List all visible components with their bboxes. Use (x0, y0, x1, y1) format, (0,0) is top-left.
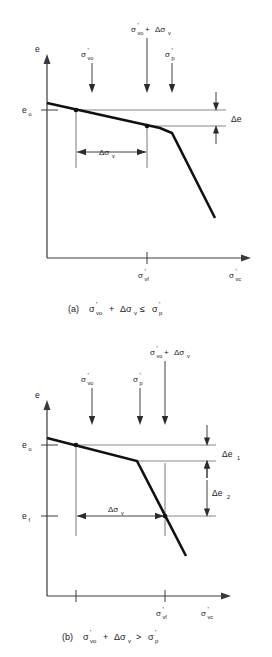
annotation-sigma-vo-plus-delta-a: σ ' vo + Δσ v (131, 22, 171, 36)
svg-text:vo: vo (96, 310, 103, 316)
y-axis-title-b: e (35, 390, 40, 400)
data-point-sigma-vf-b (163, 514, 168, 519)
x-axis-title-b: σ ' vc (201, 606, 213, 620)
svg-text:': ' (159, 301, 160, 308)
svg-text:': ' (145, 268, 146, 275)
delta-sigma-v-arrowhead-left-a (77, 149, 86, 155)
annotation-arrowhead-sigma-vo-a (89, 84, 95, 93)
caption-a: (a) σ ' vo + Δσ v ≤ σ ' p (0, 298, 272, 322)
annotation-arrowhead-sigma-vo-b (89, 416, 95, 425)
svg-text:σ: σ (152, 304, 158, 314)
annotation-sigma-vo-plus-delta-b: σ ' vo + Δσ v (150, 345, 190, 359)
svg-text:vo: vo (90, 638, 97, 644)
y-tick-label-e0-a: e o (22, 105, 32, 117)
svg-text:Δσ: Δσ (155, 25, 165, 34)
svg-text:': ' (96, 301, 97, 308)
svg-text:vo: vo (138, 30, 144, 36)
svg-text:σ: σ (201, 609, 206, 618)
svg-text:v: v (134, 310, 137, 316)
svg-text:Δe: Δe (222, 449, 233, 459)
y-axis-arrowhead-a (44, 54, 51, 64)
data-point-sigma-vf-a (145, 124, 150, 129)
svg-text:e: e (22, 511, 27, 521)
svg-text:': ' (88, 47, 89, 54)
y-axis-title-a: e (35, 44, 40, 54)
svg-text:Δσ: Δσ (120, 304, 132, 314)
svg-text:p: p (155, 638, 159, 644)
annotation-sigma-p-a: σ ' p (165, 47, 175, 61)
svg-text:v: v (112, 153, 115, 159)
svg-text:2: 2 (227, 494, 230, 500)
annotation-arrowhead-sigma-vo-plus-delta-a (144, 84, 150, 93)
svg-text:p: p (140, 380, 143, 386)
annotation-sigma-vo-a: σ ' vo (81, 47, 93, 61)
svg-text:': ' (208, 606, 209, 613)
x-axis-arrowhead-a (241, 255, 251, 262)
caption-a-expression: σ ' vo + Δσ v ≤ σ ' p (89, 301, 163, 316)
svg-text:v: v (128, 638, 131, 644)
svg-text:vo: vo (88, 55, 94, 61)
annotation-arrowhead-sigma-p-a (169, 84, 175, 93)
svg-text:σ: σ (229, 271, 234, 280)
svg-text:Δσ: Δσ (174, 348, 184, 357)
svg-text:': ' (157, 345, 158, 352)
svg-text:': ' (88, 372, 89, 379)
svg-text:vo: vo (157, 353, 163, 359)
svg-text:σ: σ (138, 271, 143, 280)
svg-text:+: + (145, 25, 150, 34)
svg-text:': ' (155, 629, 156, 636)
svg-text:e: e (22, 105, 27, 115)
svg-text:f: f (29, 517, 31, 523)
consolidation-curve-a (47, 103, 215, 218)
svg-text:v: v (168, 30, 171, 36)
svg-text:': ' (172, 47, 173, 54)
x-axis-title-a: σ ' vc (229, 268, 241, 282)
delta-e2-label-b: Δe 2 (212, 488, 230, 500)
delta-e1-label-b: Δe 1 (222, 449, 240, 461)
svg-text:Δσ: Δσ (99, 148, 109, 157)
figure-panel-a: e e o σ ' vf σ ' vc σ ' vo σ (0, 0, 272, 330)
svg-text:σ: σ (81, 375, 86, 384)
svg-text:σ: σ (81, 50, 86, 59)
x-tick-label-sigma-vf-b: σ ' vf (156, 606, 167, 620)
svg-text:p: p (172, 55, 175, 61)
svg-text:σ: σ (83, 632, 89, 642)
x-axis-arrowhead-b (221, 593, 231, 600)
svg-text:v: v (187, 353, 190, 359)
annotation-arrowhead-sigma-vo-plus-delta-b (162, 416, 168, 425)
data-point-sigma-vo-b (74, 443, 79, 448)
svg-text:vf: vf (163, 614, 168, 620)
delta-e-label-a: Δe (231, 114, 242, 124)
x-tick-label-sigma-vf-a: σ ' vf (138, 268, 149, 282)
svg-text:': ' (138, 22, 139, 29)
delta-sigma-v-arrowhead-left-b (77, 513, 86, 519)
figure-panel-b: e e o e f σ ' vf σ ' vc σ ' (0, 330, 272, 657)
panel-b-plot: e e o e f σ ' vf σ ' vc σ ' (0, 330, 272, 630)
caption-b: (b) σ ' vo + Δσ v > σ ' p (0, 626, 272, 650)
svg-text:σ: σ (156, 609, 161, 618)
svg-text:>: > (136, 632, 141, 642)
data-point-sigma-vo-a (74, 108, 79, 113)
svg-text:σ: σ (131, 25, 136, 34)
caption-b-expression: σ ' vo + Δσ v > σ ' p (83, 629, 159, 644)
y-tick-label-e0-b: e o (22, 440, 32, 452)
delta-sigma-v-arrowhead-right-b (155, 513, 164, 519)
caption-a-prefix: (a) (68, 304, 79, 314)
svg-text:+: + (103, 632, 108, 642)
annotation-sigma-p-b: σ ' p (133, 372, 143, 386)
svg-text:σ: σ (89, 304, 95, 314)
svg-text:Δσ: Δσ (114, 632, 126, 642)
y-axis-arrowhead-b (44, 400, 51, 410)
svg-text:o: o (29, 111, 32, 117)
svg-text:o: o (29, 446, 32, 452)
svg-text:≤: ≤ (140, 304, 145, 314)
svg-text:+: + (109, 304, 114, 314)
svg-text:vc: vc (236, 276, 242, 282)
svg-text:': ' (163, 606, 164, 613)
svg-text:σ: σ (133, 375, 138, 384)
svg-text:v: v (121, 510, 124, 516)
svg-text:vf: vf (145, 276, 150, 282)
svg-text:': ' (90, 629, 91, 636)
svg-text:1: 1 (237, 455, 240, 461)
svg-text:+: + (164, 348, 169, 357)
